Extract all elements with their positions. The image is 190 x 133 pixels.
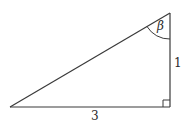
side-label-vertical: 1 [174,56,182,70]
right-triangle-diagram: β 1 3 [0,0,190,133]
right-angle-marker [163,100,170,107]
side-label-horizontal: 3 [91,109,99,123]
hypotenuse [10,13,170,107]
angle-label-beta: β [156,19,164,33]
